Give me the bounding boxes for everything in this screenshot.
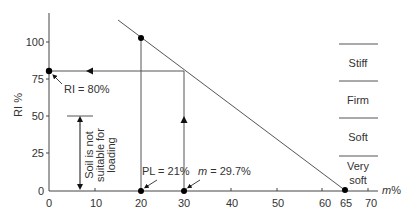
x-tick-70: 70 <box>365 197 377 209</box>
x-tick-30: 30 <box>178 197 190 209</box>
zone-stiff: Stiff <box>349 57 369 69</box>
zone-very-soft-2: soft <box>349 174 367 186</box>
m-leader-arrow-icon <box>189 180 200 187</box>
x-tick-50: 50 <box>272 197 284 209</box>
x-axis <box>49 188 378 191</box>
y-axis-title: RI % <box>12 93 24 117</box>
point-ri-80 <box>46 68 52 74</box>
point-65 <box>342 187 348 193</box>
x-tick-60: 60 <box>319 197 331 209</box>
x-tick-65: 65 <box>340 197 352 209</box>
pl-leader-arrow-icon <box>146 180 157 187</box>
x-tick-0: 0 <box>46 197 52 209</box>
y-tick-25: 25 <box>32 147 44 159</box>
m-label: m = 29.7% <box>198 165 251 177</box>
zone-very-soft-1: Very <box>347 160 370 172</box>
chart-canvas: 100 75 50 25 0 0 10 20 30 40 50 60 65 70… <box>0 0 416 217</box>
point-m-29-7 <box>181 188 187 194</box>
point-pl-21 <box>138 188 144 194</box>
x-tick-20: 20 <box>135 197 147 209</box>
y-tick-75: 75 <box>32 73 44 85</box>
y-axis <box>46 13 49 191</box>
y-tick-50: 50 <box>32 110 44 122</box>
point-pl-line <box>138 35 144 41</box>
zone-soft: Soft <box>348 131 368 143</box>
zone-firm: Firm <box>347 94 369 106</box>
y-tick-0: 0 <box>38 185 44 197</box>
svg-text:loading: loading <box>105 137 117 172</box>
x-tick-40: 40 <box>226 197 238 209</box>
pl-label: PL = 21% <box>142 165 190 177</box>
left-arrow-icon <box>86 68 93 75</box>
x-axis-title: m% <box>382 184 401 196</box>
ri-leader-arrow-icon <box>54 76 62 84</box>
x-tick-10: 10 <box>90 197 102 209</box>
consistency-zones: Stiff Firm Soft Very soft <box>339 44 378 186</box>
not-suitable-label: Soil is not suitable for loading <box>83 128 117 182</box>
y-tick-100: 100 <box>26 36 44 48</box>
ri-label: RI = 80% <box>64 83 110 95</box>
up-arrow-icon <box>181 116 188 123</box>
